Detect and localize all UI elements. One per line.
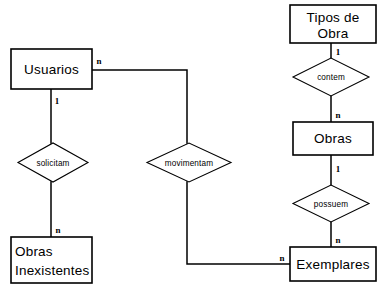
entity-obras-inexistentes-label-line2: Inexistentes <box>15 263 89 278</box>
cardinality-tipos-contem: 1 <box>336 47 341 57</box>
er-diagram-canvas: Usuarios Obras Inexistentes Tipos de Obr… <box>0 0 381 291</box>
entity-obras[interactable]: Obras <box>293 122 373 155</box>
relationship-solicitam-label: solicitam <box>36 159 69 168</box>
entity-exemplares-label: Exemplares <box>296 257 369 272</box>
cardinality-possuem-exemplares: n <box>335 235 340 245</box>
entity-obras-label: Obras <box>314 131 352 146</box>
connector-usuarios-movimentam <box>92 70 187 143</box>
relationship-movimentam-label: movimentam <box>165 159 213 168</box>
cardinality-solicitam-obras-inexistentes: n <box>55 225 60 235</box>
entity-obras-inexistentes[interactable]: Obras Inexistentes <box>11 237 92 283</box>
entity-tipos-de-obra-label-line1: Tipos de <box>307 10 360 25</box>
connector-movimentam-exemplares <box>187 182 290 264</box>
entity-usuarios-label: Usuarios <box>24 62 79 77</box>
cardinality-usuarios-solicitam: 1 <box>55 96 60 106</box>
cardinality-movimentam-exemplares: n <box>279 253 284 263</box>
entity-exemplares[interactable]: Exemplares <box>290 247 376 281</box>
relationship-contem-label: contem <box>317 73 345 82</box>
relationship-contem[interactable]: contem <box>293 58 369 96</box>
relationship-possuem-label: possuem <box>314 200 348 209</box>
entity-tipos-de-obra[interactable]: Tipos de Obra <box>290 5 376 43</box>
relationship-solicitam[interactable]: solicitam <box>18 143 88 182</box>
entity-usuarios[interactable]: Usuarios <box>11 49 92 89</box>
relationship-movimentam[interactable]: movimentam <box>147 143 231 182</box>
entity-tipos-de-obra-label-line2: Obra <box>318 26 349 41</box>
entity-obras-inexistentes-label-line1: Obras <box>15 244 53 259</box>
cardinality-obras-possuem: 1 <box>336 164 341 174</box>
cardinality-contem-obras: n <box>335 110 340 120</box>
cardinality-usuarios-movimentam: n <box>96 56 101 66</box>
relationship-possuem[interactable]: possuem <box>293 185 369 222</box>
